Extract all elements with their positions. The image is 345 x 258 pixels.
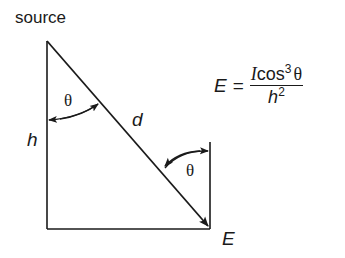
illuminance-point-label: E (222, 228, 235, 250)
illuminance-formula: E = Icos3θ h2 (214, 64, 303, 108)
illuminance-diagram: source h d θ θ E E = Icos3θ h2 (0, 0, 345, 258)
theta-arc-top (49, 104, 98, 120)
formula-denominator: h2 (268, 86, 285, 108)
formula-lhs: E (214, 75, 227, 97)
source-label: source (15, 8, 66, 28)
formula-numerator: Icos3θ (250, 64, 303, 86)
theta-label-right: θ (186, 161, 194, 181)
distance-label: d (132, 109, 143, 131)
formula-fraction: Icos3θ h2 (250, 64, 303, 108)
theta-label-top: θ (64, 91, 72, 111)
formula-equals: = (233, 75, 244, 97)
distance-arrow (47, 41, 208, 226)
height-label: h (27, 129, 38, 151)
triangle-geometry (0, 0, 345, 258)
